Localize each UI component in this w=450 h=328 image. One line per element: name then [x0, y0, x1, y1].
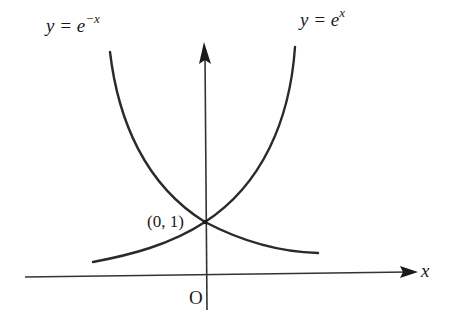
curve-label-e-x-base: y = e	[300, 9, 339, 30]
curve-label-e-neg-x-base: y = e	[46, 15, 85, 36]
origin-label: O	[189, 288, 203, 307]
curve-label-e-neg-x: y = e−x	[46, 12, 100, 35]
exponential-graph	[0, 0, 450, 328]
curve-label-e-x-exponent: x	[339, 5, 345, 20]
curve-e-neg-x	[110, 52, 318, 253]
curve-e-x	[93, 47, 295, 262]
intersection-label: (0, 1)	[147, 213, 184, 230]
x-axis	[25, 272, 408, 277]
curve-label-e-neg-x-exponent: −x	[85, 11, 100, 26]
y-axis	[205, 56, 207, 310]
intersection-point	[203, 220, 207, 224]
curve-label-e-x: y = ex	[300, 6, 345, 29]
x-axis-label: x	[421, 261, 429, 280]
